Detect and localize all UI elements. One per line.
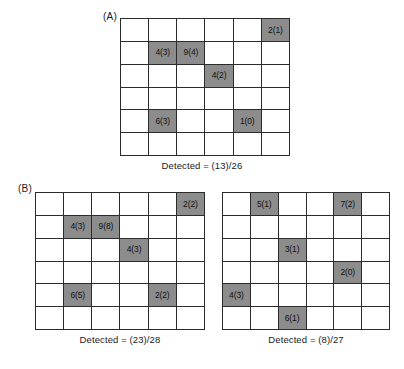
grid-cells-b-right: 5(1)7(2)3(1)2(0)4(3)6(1) — [222, 192, 390, 330]
grid-cell-empty — [177, 262, 205, 285]
grid-cell-empty — [251, 239, 279, 262]
grid-cell-filled: 4(3) — [64, 216, 92, 239]
grid-cell-filled: 6(1) — [279, 307, 307, 330]
grid-cell-empty — [223, 307, 251, 330]
grid-cell-empty — [279, 284, 307, 307]
grid-cell-empty — [251, 216, 279, 239]
grid-panel-b-right: 5(1)7(2)3(1)2(0)4(3)6(1) — [222, 192, 390, 330]
grid-cell-empty — [251, 284, 279, 307]
grid-cell-filled: 4(3) — [223, 284, 251, 307]
grid-cell-empty — [149, 307, 177, 330]
grid-cell-empty — [149, 193, 177, 216]
grid-cell-empty — [121, 88, 149, 111]
grid-cell-empty — [205, 133, 233, 156]
grid-cell-empty — [92, 262, 120, 285]
grid-panel-a: 2(1)4(3)9(4)4(2)6(3)1(0) — [120, 18, 290, 156]
grid-cell-empty — [307, 239, 335, 262]
grid-cell-empty — [362, 262, 390, 285]
panel-a-label: (A) — [103, 11, 117, 22]
grid-cell-empty — [362, 307, 390, 330]
grid-cell-empty — [36, 193, 64, 216]
grid-cell-empty — [307, 193, 335, 216]
grid-cell-empty — [92, 193, 120, 216]
grid-cell-filled: 4(2) — [205, 65, 233, 88]
figure-root: (A) 2(1)4(3)9(4)4(2)6(3)1(0) Detected = … — [0, 0, 404, 369]
grid-cell-filled: 9(8) — [92, 216, 120, 239]
grid-cell-empty — [177, 216, 205, 239]
grid-cell-empty — [205, 19, 233, 42]
grid-cell-filled: 1(0) — [234, 110, 262, 133]
grid-cell-empty — [120, 193, 148, 216]
grid-cell-filled: 2(0) — [334, 262, 362, 285]
grid-cell-empty — [92, 239, 120, 262]
grid-cell-filled: 6(5) — [64, 284, 92, 307]
grid-cell-empty — [120, 262, 148, 285]
grid-cell-empty — [149, 19, 177, 42]
grid-cell-empty — [307, 307, 335, 330]
grid-cell-empty — [177, 110, 205, 133]
grid-cell-empty — [36, 284, 64, 307]
grid-cell-empty — [279, 262, 307, 285]
panel-b: (B) 2(2)4(3)9(8)4(3)6(5)2(2) Detected = … — [0, 180, 404, 369]
grid-cell-empty — [120, 216, 148, 239]
grid-cell-empty — [251, 262, 279, 285]
grid-cell-empty — [307, 216, 335, 239]
grid-cell-filled: 9(4) — [177, 42, 205, 65]
grid-cell-empty — [334, 284, 362, 307]
grid-cell-empty — [36, 262, 64, 285]
grid-cell-empty — [234, 42, 262, 65]
grid-cell-empty — [177, 239, 205, 262]
grid-cell-empty — [149, 239, 177, 262]
grid-cell-empty — [362, 216, 390, 239]
grid-cell-empty — [307, 262, 335, 285]
panel-a: (A) 2(1)4(3)9(4)4(2)6(3)1(0) Detected = … — [0, 0, 404, 180]
grid-cell-empty — [177, 65, 205, 88]
grid-cell-empty — [362, 193, 390, 216]
grid-cell-empty — [334, 307, 362, 330]
grid-cell-empty — [362, 239, 390, 262]
grid-cell-empty — [279, 216, 307, 239]
grid-cell-empty — [64, 193, 92, 216]
grid-cell-empty — [121, 133, 149, 156]
grid-cell-empty — [120, 284, 148, 307]
grid-cell-empty — [205, 110, 233, 133]
grid-cell-filled: 4(3) — [149, 42, 177, 65]
grid-cell-empty — [223, 193, 251, 216]
grid-cell-filled: 2(2) — [149, 284, 177, 307]
grid-cell-empty — [92, 307, 120, 330]
grid-cell-empty — [149, 88, 177, 111]
grid-cell-empty — [234, 19, 262, 42]
grid-cell-empty — [262, 88, 290, 111]
grid-cell-empty — [223, 262, 251, 285]
grid-cell-empty — [262, 133, 290, 156]
grid-cell-empty — [251, 307, 279, 330]
grid-cell-empty — [262, 42, 290, 65]
caption-panel-b-left: Detected = (23)/28 — [35, 334, 205, 345]
grid-cell-empty — [120, 307, 148, 330]
grid-cell-empty — [36, 239, 64, 262]
grid-cell-empty — [64, 262, 92, 285]
grid-cell-empty — [205, 42, 233, 65]
grid-cell-empty — [307, 284, 335, 307]
grid-cell-empty — [149, 262, 177, 285]
grid-cell-empty — [36, 307, 64, 330]
grid-cell-empty — [36, 216, 64, 239]
grid-cell-empty — [149, 65, 177, 88]
grid-cell-empty — [177, 133, 205, 156]
grid-cells-b-left: 2(2)4(3)9(8)4(3)6(5)2(2) — [35, 192, 205, 330]
grid-cell-empty — [234, 65, 262, 88]
grid-cell-empty — [121, 65, 149, 88]
panel-b-label: (B) — [18, 183, 32, 194]
grid-cell-empty — [205, 88, 233, 111]
grid-cell-filled: 6(3) — [149, 110, 177, 133]
grid-cell-empty — [223, 216, 251, 239]
grid-cell-empty — [177, 88, 205, 111]
grid-cell-empty — [234, 133, 262, 156]
grid-panel-b-left: 2(2)4(3)9(8)4(3)6(5)2(2) — [35, 192, 205, 330]
grid-cell-empty — [334, 239, 362, 262]
grid-cell-empty — [177, 307, 205, 330]
grid-cell-empty — [262, 65, 290, 88]
caption-panel-b-right: Detected = (8)/27 — [222, 334, 390, 345]
grid-cell-empty — [121, 19, 149, 42]
grid-cell-filled: 2(1) — [262, 19, 290, 42]
